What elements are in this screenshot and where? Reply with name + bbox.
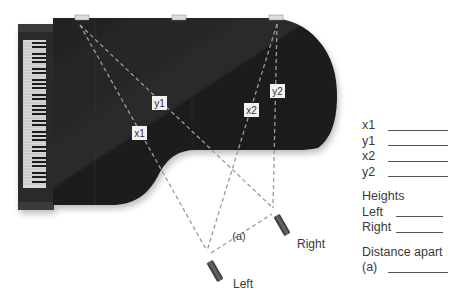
right-mic-label: Right bbox=[297, 237, 326, 251]
svg-text:x2: x2 bbox=[246, 105, 257, 116]
heights-heading: Heights bbox=[362, 189, 462, 205]
y2-answer-field[interactable] bbox=[388, 176, 448, 177]
y1-answer-field[interactable] bbox=[388, 145, 448, 146]
x1-answer-field[interactable] bbox=[388, 130, 448, 131]
form-label-x2: x2 bbox=[362, 149, 388, 165]
form-row-y1: y1 bbox=[362, 134, 462, 150]
distance-a-field[interactable] bbox=[388, 272, 448, 273]
piano bbox=[18, 18, 337, 210]
measurement-form: x1 y1 x2 y2 Heights Left Right Distance … bbox=[362, 118, 462, 276]
form-label-y1: y1 bbox=[362, 134, 388, 150]
label-y1: y1 bbox=[152, 96, 167, 110]
form-row-distance-a: (a) bbox=[362, 260, 462, 276]
piano-body bbox=[53, 18, 337, 205]
form-label-a: (a) bbox=[362, 260, 388, 276]
form-label-x1: x1 bbox=[362, 118, 388, 134]
left-microphone-icon bbox=[206, 260, 223, 283]
form-row-right-height: Right bbox=[362, 220, 462, 236]
form-row-x2: x2 bbox=[362, 149, 462, 165]
label-a: (a) bbox=[232, 230, 245, 242]
form-row-left-height: Left bbox=[362, 205, 462, 221]
form-label-left: Left bbox=[362, 205, 396, 221]
form-row-x1: x1 bbox=[362, 118, 462, 134]
left-height-field[interactable] bbox=[396, 216, 443, 217]
form-label-y2: y2 bbox=[362, 165, 388, 181]
svg-text:x1: x1 bbox=[134, 128, 145, 139]
label-x2: x2 bbox=[244, 103, 259, 117]
svg-text:y2: y2 bbox=[272, 86, 283, 97]
label-x1: x1 bbox=[132, 126, 147, 140]
svg-text:y1: y1 bbox=[154, 98, 165, 109]
form-row-y2: y2 bbox=[362, 165, 462, 181]
keyboard-keys bbox=[23, 40, 46, 188]
left-mic-label: Left bbox=[233, 277, 254, 291]
right-height-field[interactable] bbox=[396, 232, 443, 233]
right-microphone-icon bbox=[273, 214, 290, 237]
label-y2: y2 bbox=[270, 84, 285, 98]
x2-answer-field[interactable] bbox=[388, 161, 448, 162]
form-label-right: Right bbox=[362, 220, 396, 236]
distance-apart-heading: Distance apart bbox=[362, 245, 462, 261]
